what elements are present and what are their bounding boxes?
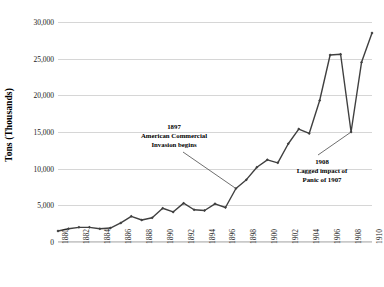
x-tick-label-text: 1884 [103,229,112,244]
annotation-1908-year: 1908 [276,158,368,167]
annotation-1908: 1908 Lagged impact of Panic of 1907 [276,158,368,184]
annotation-1908-line1: Lagged impact of [276,167,368,176]
x-tick-label-text: 1910 [375,229,384,244]
x-tick-label-text: 1892 [187,229,196,244]
x-tick-label-text: 1898 [249,229,258,244]
x-tick-label-text: 1886 [124,229,133,244]
x-tick-label-text: 1880 [61,229,70,244]
x-axis-tick-labels: 1880188218841886188818901892189418961898… [58,244,372,286]
data-point-1906 [329,54,332,57]
data-point-1882 [77,226,80,229]
x-tick-label-text: 1902 [291,229,300,244]
chart-figure: Tons (Thousands) 05,00010,00015,00020,00… [0,0,384,287]
data-point-1880 [57,230,60,233]
annotation-1897-line2: Invasion begins [118,141,230,150]
y-tick-label-5000: 5,000 [10,201,54,210]
x-tick-label-text: 1894 [208,229,217,244]
x-tick-label-text: 1906 [333,229,342,244]
x-tick-label-text: 1908 [354,229,363,244]
x-tick-label-text: 1890 [166,229,175,244]
annotation-1897-year: 1897 [118,123,230,132]
x-tick-label-text: 1896 [228,229,237,244]
y-tick-label-30000: 30,000 [10,18,54,27]
y-tick-label-15000: 15,000 [10,128,54,137]
y-tick-label-0: 0 [10,238,54,247]
data-point-1884 [98,227,101,230]
y-tick-label-25000: 25,000 [10,54,54,63]
x-tick-label-text: 1900 [270,229,279,244]
annotation-1897: 1897 American Commercial Invasion begins [118,123,230,149]
data-point-1907 [339,53,342,56]
y-tick-label-20000: 20,000 [10,91,54,100]
y-tick-label-10000: 10,000 [10,164,54,173]
y-axis-tick-labels: 05,00010,00015,00020,00025,00030,000 [8,22,54,242]
data-point-1908 [350,131,353,134]
x-tick-label-text: 1882 [82,229,91,244]
x-tick-label-text: 1904 [312,229,321,244]
annotation-1908-line2: Panic of 1907 [276,176,368,185]
annotation-1897-line1: American Commercial [118,132,230,141]
x-tick-label-text: 1888 [145,229,154,244]
